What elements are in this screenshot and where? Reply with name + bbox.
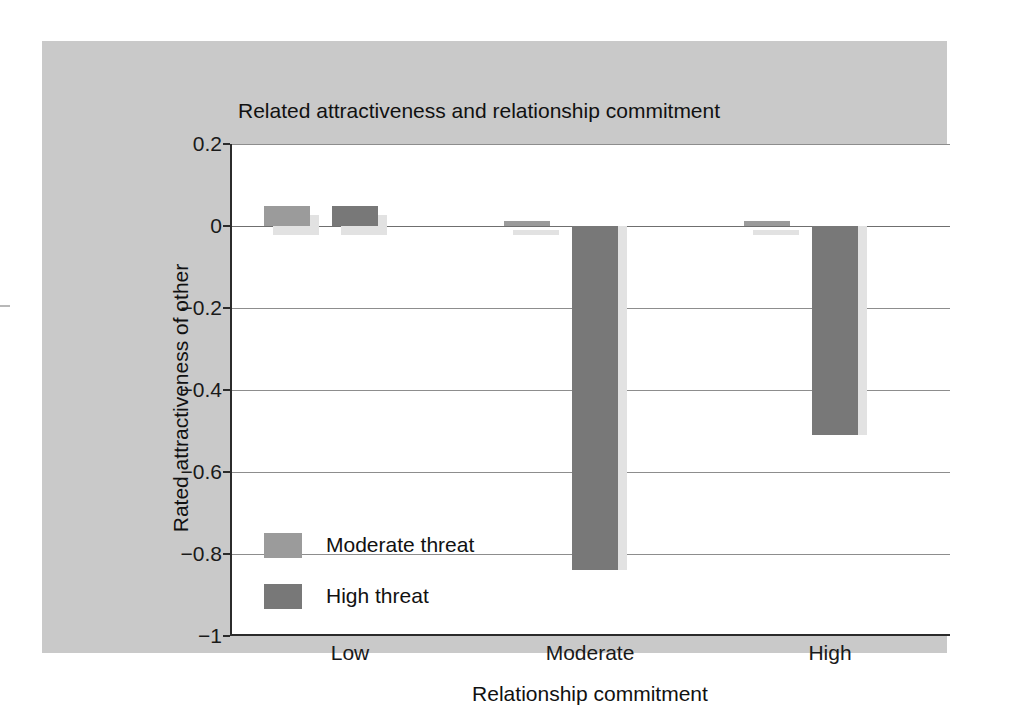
y-axis-tick-mark <box>223 307 230 309</box>
x-axis-tick-label: Low <box>331 641 370 665</box>
legend-swatch <box>264 584 302 609</box>
figure-page: Related attractiveness and relationship … <box>0 0 1015 724</box>
y-axis-tick-label: −0.8 <box>181 543 222 564</box>
legend-item[interactable]: Moderate threat <box>264 531 564 559</box>
y-axis-tick-label: −0.4 <box>181 379 222 400</box>
x-axis-label: Relationship commitment <box>230 682 950 706</box>
y-axis-tick-mark <box>223 471 230 473</box>
figure-panel: Related attractiveness and relationship … <box>42 41 947 653</box>
y-axis-tick-mark <box>223 225 230 227</box>
y-axis-tick-mark <box>223 553 230 555</box>
bar[interactable] <box>744 221 790 226</box>
x-axis-tick-label: High <box>808 641 851 665</box>
y-axis-tick-label: −0.6 <box>181 461 222 482</box>
bar[interactable] <box>264 206 310 227</box>
x-axis-tick-label: Moderate <box>546 641 635 665</box>
bar[interactable] <box>504 221 550 226</box>
bar-shadow <box>513 230 559 235</box>
bar[interactable] <box>332 206 378 227</box>
y-axis-tick-label: 0.2 <box>193 133 222 154</box>
chart-title: Related attractiveness and relationship … <box>238 99 720 123</box>
y-axis-tick-label: −1 <box>198 625 222 646</box>
legend-label: High threat <box>326 584 429 608</box>
bar[interactable] <box>572 226 618 570</box>
chart-legend: Moderate threatHigh threat <box>264 531 564 633</box>
legend-label: Moderate threat <box>326 533 474 557</box>
y-axis-tick-label: 0 <box>210 215 222 236</box>
x-axis-tick-labels: LowModerateHigh <box>230 641 950 673</box>
gridline <box>232 144 950 145</box>
y-axis-tick-labels: 0.20−0.2−0.4−0.6−0.8−1 <box>150 144 222 636</box>
y-axis-tick-label: −0.2 <box>181 297 222 318</box>
page-edge-mark <box>0 305 10 307</box>
bar[interactable] <box>812 226 858 435</box>
legend-item[interactable]: High threat <box>264 582 564 610</box>
y-axis-tick-mark <box>223 143 230 145</box>
y-axis-tick-mark <box>223 389 230 391</box>
bar-shadow <box>753 230 799 235</box>
y-axis-label-wrapper: Rated attractiveness of other <box>124 41 125 42</box>
legend-swatch <box>264 533 302 558</box>
y-axis-tick-mark <box>223 635 230 637</box>
